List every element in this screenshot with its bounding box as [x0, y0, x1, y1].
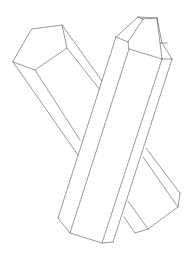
front-crystal [58, 17, 172, 243]
crystal-drawing [0, 0, 191, 255]
illustration [0, 0, 191, 255]
